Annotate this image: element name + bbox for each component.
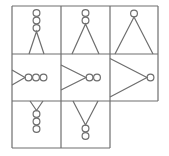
circle-icon — [33, 74, 40, 81]
triangle-icon — [110, 59, 147, 98]
circle-icon — [82, 133, 89, 140]
triangle-icon — [73, 101, 98, 125]
triangle-icon — [72, 24, 99, 54]
circle-icon — [33, 111, 40, 118]
triangle-icon — [115, 17, 153, 54]
cell-r3-c1-figure — [30, 101, 43, 132]
triangle-icon — [12, 70, 25, 85]
circle-icon — [40, 74, 47, 81]
circle-icon — [33, 10, 40, 17]
circle-icon — [33, 126, 40, 133]
cell-r2-c1-figure — [12, 70, 47, 85]
cell-r1-c3-figure — [115, 10, 153, 54]
triangle-icon — [61, 65, 86, 90]
puzzle-grid — [0, 0, 169, 156]
circle-icon — [94, 74, 101, 81]
cell-r2-c2-figure — [61, 65, 100, 90]
figure-sequence-puzzle — [0, 0, 169, 156]
cell-r2-c3-figure — [110, 59, 154, 98]
circle-icon — [33, 17, 40, 24]
cell-r1-c2-figure — [72, 10, 99, 54]
circle-icon — [82, 10, 89, 17]
circle-icon — [33, 118, 40, 125]
cell-r3-c2-figure — [73, 101, 98, 139]
triangle-icon — [30, 101, 43, 111]
triangle-icon — [29, 32, 44, 55]
cell-r1-c1-figure — [29, 10, 44, 54]
